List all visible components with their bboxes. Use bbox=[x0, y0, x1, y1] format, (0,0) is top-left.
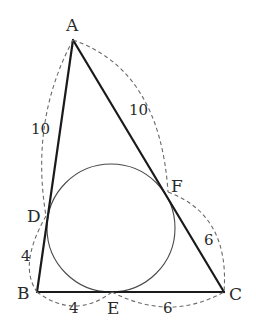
diagram-canvas: A B C D E F 10 10 4 4 6 6 bbox=[0, 0, 256, 328]
length-ad: 10 bbox=[31, 120, 50, 138]
label-a: A bbox=[65, 15, 79, 35]
length-af: 10 bbox=[129, 101, 148, 119]
length-bd: 4 bbox=[21, 247, 31, 265]
triangle-diagram: A B C D E F 10 10 4 4 6 6 bbox=[0, 0, 256, 328]
length-be: 4 bbox=[69, 299, 79, 317]
incircle bbox=[47, 164, 175, 292]
length-ce: 6 bbox=[163, 299, 173, 317]
label-f: F bbox=[171, 176, 183, 196]
length-cf: 6 bbox=[204, 231, 214, 249]
side-ab bbox=[37, 40, 73, 292]
label-c: C bbox=[229, 284, 242, 304]
label-b: B bbox=[17, 283, 30, 303]
label-d: D bbox=[27, 206, 41, 226]
label-e: E bbox=[107, 298, 119, 318]
